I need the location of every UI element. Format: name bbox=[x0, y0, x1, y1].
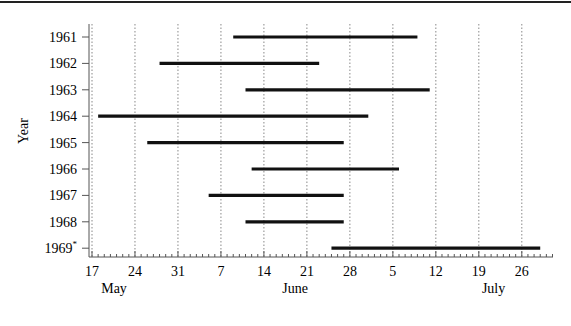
month-label: July bbox=[482, 281, 505, 296]
x-tick-label: 17 bbox=[85, 264, 99, 279]
month-label: June bbox=[282, 281, 308, 296]
y-tick-label: 1963 bbox=[49, 83, 77, 98]
range-chart: 17243171421285121926MayJuneJuly196119621… bbox=[0, 0, 571, 326]
month-label: May bbox=[101, 281, 127, 296]
x-tick-label: 12 bbox=[429, 264, 443, 279]
x-tick-label: 26 bbox=[515, 264, 529, 279]
y-tick-label: 1968 bbox=[49, 215, 77, 230]
y-axis-label: Year bbox=[16, 118, 31, 144]
y-tick-label: 1966 bbox=[49, 162, 77, 177]
axis-labels: 17243171421285121926MayJuneJuly196119621… bbox=[45, 30, 529, 296]
x-tick-label: 31 bbox=[171, 264, 185, 279]
y-tick-label: 1962 bbox=[49, 56, 77, 71]
x-tick-label: 14 bbox=[257, 264, 271, 279]
y-tick-label: 1967 bbox=[49, 188, 77, 203]
x-tick-label: 19 bbox=[472, 264, 486, 279]
x-tick-label: 28 bbox=[343, 264, 357, 279]
y-tick-label: 1965 bbox=[49, 136, 77, 151]
bars bbox=[98, 37, 540, 248]
y-tick-label: 1964 bbox=[49, 109, 77, 124]
x-tick-label: 5 bbox=[389, 264, 396, 279]
x-tick-label: 24 bbox=[128, 264, 142, 279]
x-tick-label: 21 bbox=[300, 264, 314, 279]
y-tick-label: 1961 bbox=[49, 30, 77, 45]
y-tick-label: 1969* bbox=[45, 239, 78, 256]
x-tick-label: 7 bbox=[217, 264, 224, 279]
